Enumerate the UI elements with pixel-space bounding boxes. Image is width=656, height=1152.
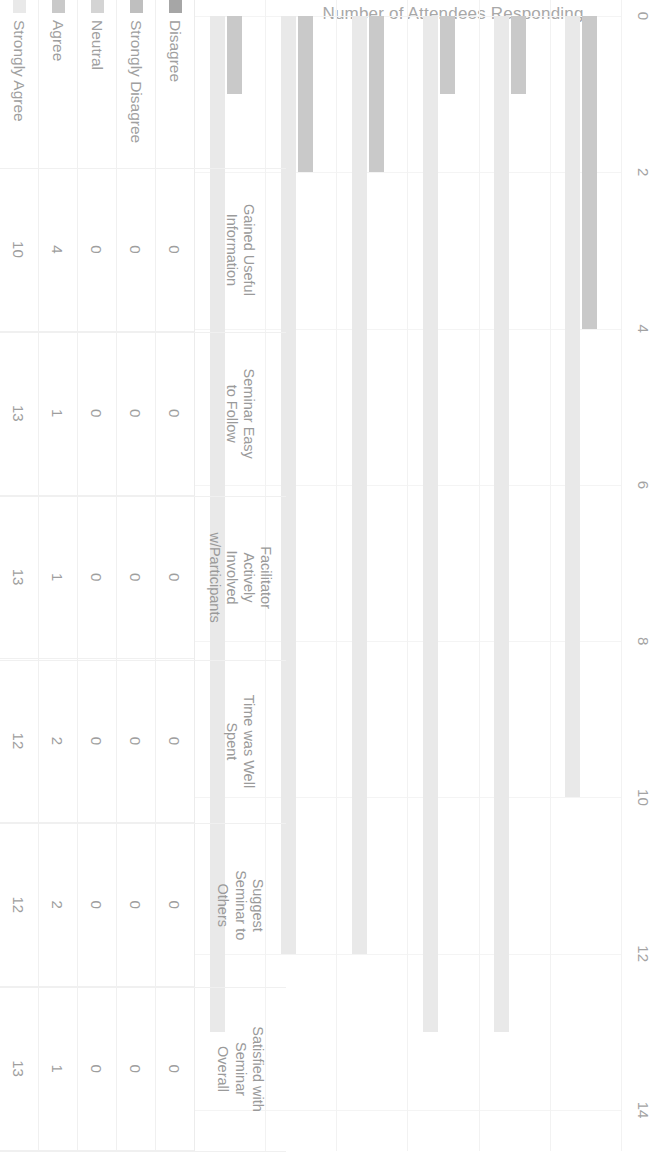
category-header: Time was WellSpent bbox=[194, 660, 286, 824]
category-header-line: w/Participants bbox=[206, 532, 223, 622]
category-header: FacilitatorActivelyInvolvedw/Participant… bbox=[194, 496, 286, 660]
axis-tick-label: 0 bbox=[635, 12, 652, 20]
axis-tick-label: 8 bbox=[635, 637, 652, 645]
bar bbox=[582, 16, 597, 329]
axis-tick-label: 4 bbox=[635, 324, 652, 332]
category-header-line: Time was Well bbox=[240, 695, 257, 788]
legend-swatch-icon bbox=[130, 0, 143, 13]
category-separator bbox=[550, 0, 551, 1151]
category-header-line: Overall bbox=[214, 1046, 231, 1092]
category-separator bbox=[621, 0, 622, 1151]
category-bar-group bbox=[409, 0, 480, 1151]
legend-item[interactable]: Neutral bbox=[78, 0, 117, 1151]
category-separator bbox=[336, 0, 337, 1151]
chart-legend: DisagreeStrongly DisagreeNeutralAgreeStr… bbox=[0, 0, 195, 1151]
category-header: Satisfied withSeminarOverall bbox=[194, 987, 286, 1151]
category-separator bbox=[408, 0, 409, 1151]
category-header-line: Satisfied with bbox=[249, 1026, 266, 1111]
legend-item[interactable]: Disagree bbox=[156, 0, 195, 1151]
category-bar-group bbox=[551, 0, 622, 1151]
category-header-line: Gained Useful bbox=[240, 204, 257, 296]
legend-label: Strongly Agree bbox=[11, 20, 29, 122]
category-header-line: Involved bbox=[223, 551, 240, 605]
category-bar-group bbox=[480, 0, 551, 1151]
category-separator bbox=[479, 0, 480, 1151]
bar bbox=[440, 16, 455, 94]
category-header-line: Facilitator bbox=[257, 546, 274, 609]
bar bbox=[369, 16, 384, 172]
legend-swatch-icon bbox=[13, 0, 26, 13]
legend-swatch-icon bbox=[52, 0, 65, 13]
bar bbox=[511, 16, 526, 94]
category-header: Seminar Easyto Follow bbox=[194, 332, 286, 496]
value-axis: 02468101214 bbox=[622, 0, 656, 1151]
bar bbox=[494, 16, 509, 1032]
legend-item[interactable]: Agree bbox=[39, 0, 78, 1151]
category-header-line: Suggest bbox=[249, 879, 266, 932]
bar bbox=[423, 16, 438, 1032]
legend-label: Disagree bbox=[167, 20, 185, 82]
axis-tick-label: 14 bbox=[635, 1102, 652, 1119]
category-header-line: to Follow bbox=[223, 385, 240, 443]
category-header-line: Information bbox=[223, 214, 240, 287]
bar bbox=[352, 16, 367, 954]
legend-swatch-icon bbox=[91, 0, 104, 13]
category-header-line: Spent bbox=[223, 722, 240, 760]
category-header-line: Seminar to bbox=[231, 870, 248, 940]
category-header-line: Seminar Easy bbox=[240, 369, 257, 459]
legend-label: Strongly Disagree bbox=[128, 20, 146, 143]
legend-label: Agree bbox=[50, 20, 68, 61]
legend-label: Neutral bbox=[89, 20, 107, 70]
category-header-line: Others bbox=[214, 883, 231, 927]
legend-item[interactable]: Strongly Agree bbox=[0, 0, 39, 1151]
bar bbox=[565, 16, 580, 797]
axis-tick-label: 12 bbox=[635, 945, 652, 962]
axis-tick-label: 2 bbox=[635, 168, 652, 176]
axis-tick-label: 6 bbox=[635, 481, 652, 489]
axis-tick-label: 10 bbox=[635, 789, 652, 806]
category-header: SuggestSeminar toOthers bbox=[194, 823, 286, 987]
category-header: Gained UsefulInformation bbox=[194, 168, 286, 332]
legend-item[interactable]: Strongly Disagree bbox=[117, 0, 156, 1151]
category-header-line: Seminar bbox=[231, 1042, 248, 1096]
table-category-header-row: Gained UsefulInformationSeminar Easyto F… bbox=[194, 0, 286, 1151]
category-header-line: Actively bbox=[240, 553, 257, 603]
category-bar-group bbox=[337, 0, 408, 1151]
bar bbox=[298, 16, 313, 172]
legend-swatch-icon bbox=[169, 0, 182, 13]
